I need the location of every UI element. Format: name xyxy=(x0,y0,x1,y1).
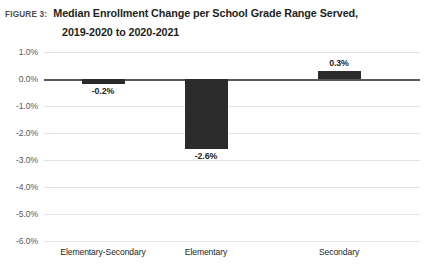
page-title: Median Enrollment Change per School Grad… xyxy=(53,7,358,19)
y-axis-tick-label: -2.0% xyxy=(16,128,38,138)
bar[interactable] xyxy=(318,71,361,79)
y-axis-tick-label: 1.0% xyxy=(19,47,38,57)
x-axis-category-label: Secondary xyxy=(296,247,382,257)
y-axis-tick-label: -6.0% xyxy=(16,236,38,246)
bar-value-label: -0.2% xyxy=(73,86,133,96)
bar-group: -0.2%Elementary-Secondary xyxy=(82,52,125,241)
bar-group: -2.6%Elementary xyxy=(185,52,228,241)
bar-value-label: 0.3% xyxy=(309,58,369,68)
bar-group: 0.3%Secondary xyxy=(318,52,361,241)
y-axis-tick-label: -5.0% xyxy=(16,209,38,219)
figure-number-label: FIGURE 3: xyxy=(5,10,47,19)
figure-title-line-2: 2019-2020 to 2020-2021 xyxy=(0,22,435,40)
y-axis-tick-label: -1.0% xyxy=(16,101,38,111)
x-axis-category-label: Elementary-Secondary xyxy=(60,247,146,257)
bar-chart: 1.0%0.0%-1.0%-2.0%-3.0%-4.0%-5.0%-6.0% -… xyxy=(0,40,435,268)
y-axis-tick-label: 0.0% xyxy=(19,74,38,84)
y-axis-tick-label: -3.0% xyxy=(16,155,38,165)
figure-header: FIGURE 3:Median Enrollment Change per Sc… xyxy=(0,0,435,40)
plot-area: 1.0%0.0%-1.0%-2.0%-3.0%-4.0%-5.0%-6.0% -… xyxy=(44,52,420,241)
x-axis-category-label: Elementary xyxy=(163,247,249,257)
gridline: -6.0% xyxy=(44,241,420,242)
bar[interactable] xyxy=(82,79,125,84)
bar-value-label: -2.6% xyxy=(176,151,236,161)
y-axis-tick-label: -4.0% xyxy=(16,182,38,192)
figure-title-line-1: FIGURE 3:Median Enrollment Change per Sc… xyxy=(0,3,435,21)
bar[interactable] xyxy=(185,79,228,149)
page-subtitle: 2019-2020 to 2020-2021 xyxy=(62,26,179,38)
